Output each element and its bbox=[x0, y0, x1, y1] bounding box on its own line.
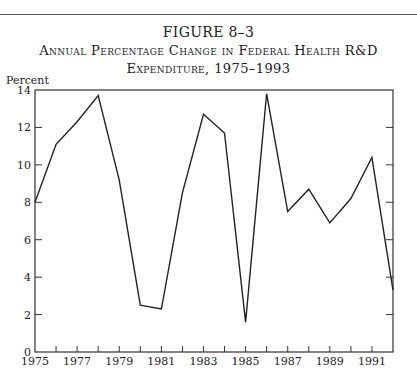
x-tick-label: 1979 bbox=[105, 355, 133, 368]
x-tick-label: 1975 bbox=[21, 355, 49, 368]
y-tick-label: 14 bbox=[17, 84, 31, 97]
series-line bbox=[35, 94, 393, 322]
x-tick-label: 1987 bbox=[274, 355, 302, 368]
plot-border bbox=[35, 90, 393, 352]
y-tick-label: 8 bbox=[24, 196, 31, 209]
x-tick-label: 1983 bbox=[189, 355, 217, 368]
x-tick-label: 1981 bbox=[147, 355, 175, 368]
y-tick-label: 10 bbox=[17, 159, 31, 172]
line-chart: 02468101214 1975197719791981198319851987… bbox=[0, 0, 417, 385]
x-tick-label: 1989 bbox=[316, 355, 344, 368]
y-tick-label: 2 bbox=[24, 309, 31, 322]
x-tick-label: 1977 bbox=[63, 355, 91, 368]
y-tick-label: 6 bbox=[24, 234, 31, 247]
x-axis-ticks: 197519771979198119831985198719891991 bbox=[21, 346, 386, 368]
y-tick-label: 12 bbox=[17, 121, 31, 134]
plot-frame bbox=[35, 90, 393, 352]
y-tick-label: 4 bbox=[24, 271, 31, 284]
x-tick-label: 1985 bbox=[232, 355, 260, 368]
x-tick-label: 1991 bbox=[358, 355, 386, 368]
